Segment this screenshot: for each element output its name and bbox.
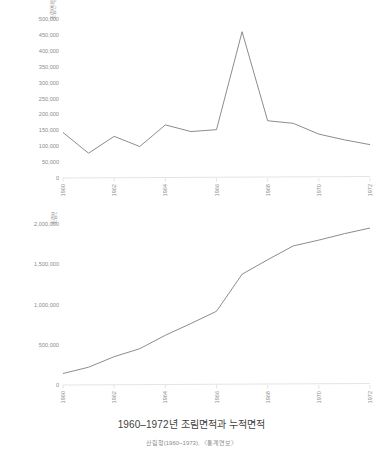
y-axis-tick-label: 450,000 (39, 32, 59, 38)
data-series-line (63, 32, 370, 153)
x-axis-tick-label: 1960 (60, 391, 66, 403)
y-axis-tick-label: 500,000 (39, 342, 59, 348)
y-axis-tick-label: 0 (56, 175, 59, 181)
y-axis-tick-label: 350,000 (39, 64, 59, 70)
y-axis-tick-label: 300,000 (39, 80, 59, 86)
x-axis-line (63, 384, 370, 386)
figure-source: 산림청(1960~1973), 〈통계연보〉 (0, 432, 383, 448)
x-axis-tick-label: 1964 (162, 184, 168, 196)
x-axis-tick-label: 1972 (367, 391, 373, 403)
x-axis-tick-label: 1970 (316, 391, 322, 403)
y-axis-tick-label: 1,000,000 (34, 302, 59, 308)
cumulative-afforestation-plot: 0500,0001,000,0001,500,0002,000,000조림면적 … (0, 212, 383, 417)
y-axis-tick-label: 50,000 (42, 159, 59, 165)
y-axis-tick-label: 0 (56, 382, 59, 388)
x-axis-tick-label: 1962 (111, 391, 117, 403)
x-axis-tick-label: 1964 (162, 391, 168, 403)
data-series-line (63, 228, 370, 373)
annual-afforestation-chart: 050,000100,000150,000200,000250,000300,0… (0, 0, 383, 215)
figure-caption: 1960–1972년 조림면적과 누적면적 산림청(1960~1973), 〈통… (0, 418, 383, 448)
cumulative-afforestation-chart: 0500,0001,000,0001,500,0002,000,000조림면적 … (0, 212, 383, 417)
figure-title: 1960–1972년 조림면적과 누적면적 (0, 418, 383, 432)
x-axis-tick-label: 1962 (111, 184, 117, 196)
x-axis-tick-label: 1966 (214, 184, 220, 196)
x-axis-tick-label: 1960 (60, 184, 66, 196)
x-axis-tick-label: 1972 (367, 184, 373, 196)
x-axis-tick-label: 1966 (214, 391, 220, 403)
x-axis-tick-label: 1968 (265, 391, 271, 403)
figure-container: 050,000100,000150,000200,000250,000300,0… (0, 0, 383, 464)
y-axis-title: 조림면적 ( ha ) (49, 0, 57, 20)
y-axis-tick-label: 250,000 (39, 96, 59, 102)
x-axis-tick-label: 1968 (265, 184, 271, 196)
y-axis-title: 조림면적 누계 ( ha ) (50, 212, 58, 225)
y-axis-tick-label: 100,000 (39, 143, 59, 149)
annual-afforestation-plot: 050,000100,000150,000200,000250,000300,0… (0, 0, 383, 215)
x-axis-tick-label: 1970 (316, 184, 322, 196)
y-axis-tick-label: 200,000 (39, 111, 59, 117)
y-axis-tick-label: 1,500,000 (34, 261, 59, 267)
y-axis-tick-label: 150,000 (39, 127, 59, 133)
x-axis-line (63, 177, 370, 179)
y-axis-tick-label: 400,000 (39, 48, 59, 54)
